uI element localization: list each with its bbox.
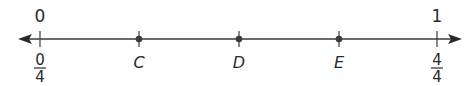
fraction-start-numerator: 0: [35, 51, 45, 69]
point-label-d: D: [233, 53, 245, 72]
top-label-end: 1: [432, 6, 443, 26]
point-dot: [136, 36, 143, 43]
number-line-diagram: 0 1 C D E 0 4 4 4: [0, 0, 470, 86]
fraction-end-denominator: 4: [432, 68, 442, 86]
fraction-end: 4 4: [431, 51, 443, 86]
point-c: [136, 31, 143, 47]
point-dot: [236, 36, 243, 43]
fraction-start: 0 4: [34, 51, 46, 86]
point-dot: [336, 36, 343, 43]
point-e: [336, 31, 343, 47]
point-label-c: C: [133, 53, 145, 72]
fraction-end-numerator: 4: [432, 51, 442, 69]
point-d: [236, 31, 243, 47]
fraction-start-denominator: 4: [35, 68, 45, 86]
top-label-start: 0: [35, 6, 46, 26]
point-label-e: E: [334, 53, 345, 72]
number-line-svg: 0 1 C D E 0 4 4 4: [0, 0, 470, 86]
